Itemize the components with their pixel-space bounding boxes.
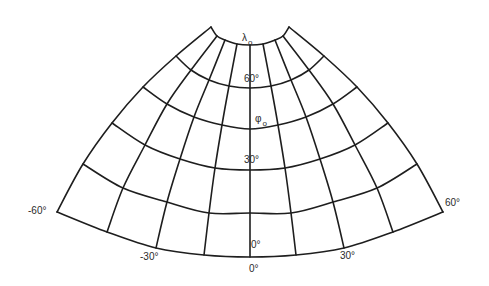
meridian-lines [57, 27, 443, 257]
label-lon-m30: -30° [140, 251, 158, 262]
meridian-45 [283, 36, 393, 232]
label-lon-m60: -60° [28, 205, 46, 216]
conic-projection-graticule: λo60°φo30°0°0°-30°30°-60°60° [0, 0, 489, 286]
label-lat-60: 60° [244, 73, 259, 84]
label-lon-30: 30° [340, 250, 355, 261]
meridian-m15 [204, 44, 237, 255]
meridian-m45 [107, 36, 217, 232]
meridian-m60 [57, 27, 211, 212]
graticule-labels: λo60°φo30°0°0°-30°30°-60°60° [28, 32, 460, 274]
meridian-15 [263, 44, 296, 255]
label-lon-0: 0° [249, 263, 259, 274]
label-phi0: φo [255, 113, 267, 128]
meridian-60 [289, 27, 443, 212]
label-lon-60: 60° [445, 197, 460, 208]
label-lat-30: 30° [244, 154, 259, 165]
label-lat-0: 0° [251, 239, 261, 250]
